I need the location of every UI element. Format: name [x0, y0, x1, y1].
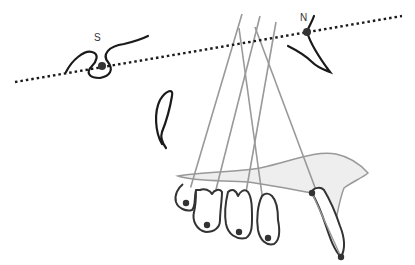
nasion-outline: [288, 16, 330, 72]
tooth-1-point: [183, 200, 189, 206]
incisor-crown-point: [309, 190, 315, 196]
nasion-label: N: [300, 12, 307, 23]
sella-label: S: [94, 32, 101, 43]
tooth-outline-1: [175, 184, 196, 211]
tooth-3-point: [236, 229, 242, 235]
teeth: [175, 184, 343, 257]
incisor-apex-point: [338, 254, 344, 260]
cephalometric-tracing: [0, 0, 415, 265]
tooth-2-point: [204, 222, 210, 228]
orbit-outline: [156, 91, 172, 148]
landmarks: [98, 28, 344, 260]
nasion-point: [303, 28, 311, 36]
sella-point: [98, 62, 106, 70]
tooth-4-point: [265, 235, 271, 241]
sella-outline: [66, 36, 148, 78]
sn-reference-line: [15, 16, 402, 82]
